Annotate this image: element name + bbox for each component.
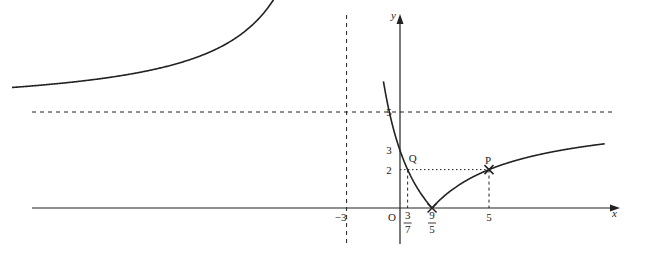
point-label-Q: Q	[409, 152, 417, 164]
right-branch-ascending	[432, 144, 605, 208]
cross-marker-P	[485, 165, 494, 174]
axes	[32, 14, 620, 244]
x-tick-fraction-den-2: 5	[429, 223, 435, 235]
labels: xyO532−337955QP	[335, 9, 617, 235]
x-tick-fraction-num-1: 3	[405, 209, 411, 221]
point-label-P: P	[485, 154, 491, 166]
left-branch-curve	[12, 0, 301, 87]
x-tick-label-3: 5	[486, 211, 492, 223]
x-tick-fraction-den-1: 7	[405, 223, 411, 235]
x-tick-label-0: −3	[335, 211, 347, 223]
y-tick-label-5: 5	[386, 106, 392, 118]
guide-lines	[32, 15, 615, 245]
x-axis-label: x	[611, 207, 617, 219]
origin-label: O	[388, 211, 396, 223]
y-tick-label-3: 3	[386, 144, 392, 156]
function-curves	[12, 0, 605, 208]
x-tick-fraction-num-2: 9	[429, 209, 435, 221]
y-axis-label: y	[390, 9, 396, 21]
y-tick-label-2: 2	[386, 164, 392, 176]
y-axis-arrow-icon	[397, 14, 404, 24]
graph-figure: xyO532−337955QP	[0, 0, 648, 259]
